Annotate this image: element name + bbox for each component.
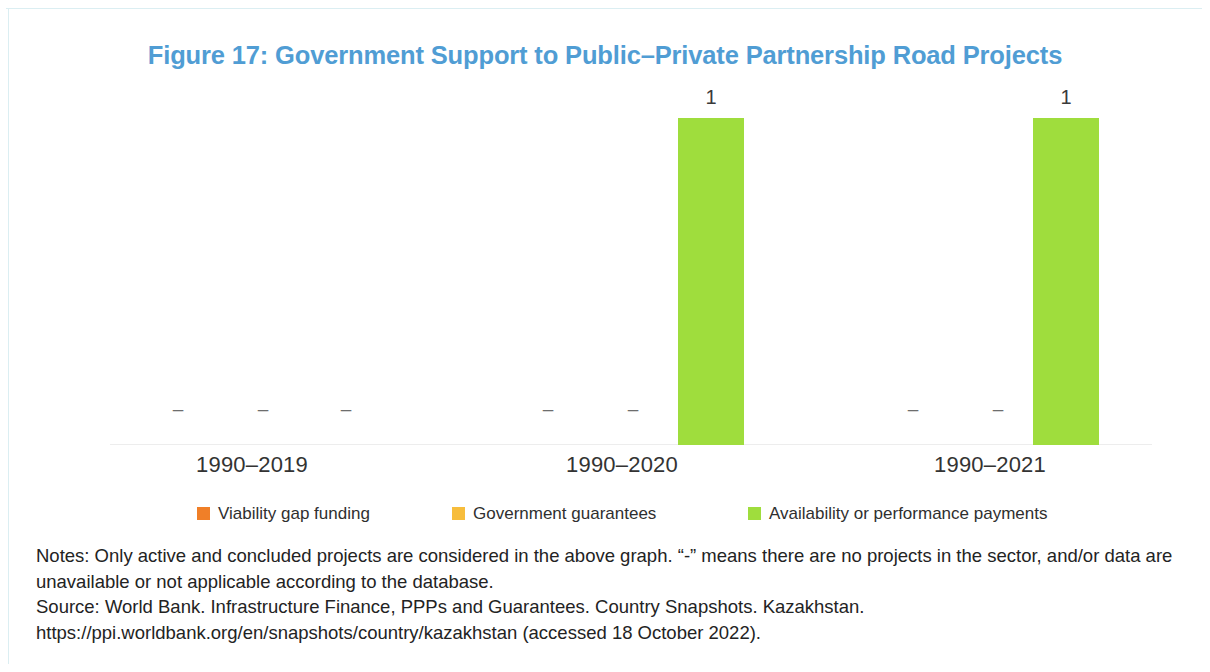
bar-group-1990-2021: – – 1	[870, 88, 1170, 445]
legend-item-government-guarantees[interactable]: Government guarantees	[452, 505, 656, 522]
figure-container: Figure 17: Government Support to Public–…	[0, 0, 1210, 672]
bar-value-label: 1	[1013, 87, 1119, 107]
legend-swatch-icon	[452, 507, 465, 520]
missing-value-marker: –	[600, 399, 666, 418]
bar-slot-viability-gap-funding[interactable]: –	[880, 88, 946, 445]
missing-value-marker: –	[145, 399, 211, 418]
figure-footnotes: Notes: Only active and concluded project…	[36, 543, 1176, 645]
missing-value-marker: –	[230, 399, 296, 418]
bar-slot-availability-or-performance-payments[interactable]: –	[313, 88, 379, 445]
missing-value-marker: –	[880, 399, 946, 418]
legend-label: Availability or performance payments	[769, 505, 1047, 522]
missing-value-marker: –	[965, 399, 1031, 418]
legend-label: Viability gap funding	[218, 505, 370, 522]
figure-source: Source: World Bank. Infrastructure Finan…	[36, 594, 1176, 645]
bar-slot-government-guarantees[interactable]: –	[230, 88, 296, 445]
x-axis-label-1990-2020: 1990–2020	[472, 452, 772, 478]
bar-group-1990-2019: – – –	[135, 88, 435, 445]
bar-slot-availability-or-performance-payments[interactable]: 1	[1033, 88, 1099, 445]
missing-value-marker: –	[515, 399, 581, 418]
bar-availability-or-performance-payments[interactable]	[1033, 118, 1099, 445]
legend-swatch-icon	[748, 507, 761, 520]
bar-slot-government-guarantees[interactable]: –	[965, 88, 1031, 445]
figure-notes: Notes: Only active and concluded project…	[36, 543, 1176, 594]
bar-slot-viability-gap-funding[interactable]: –	[145, 88, 211, 445]
bar-slot-government-guarantees[interactable]: –	[600, 88, 666, 445]
plot-area: – – – – – 1 –	[110, 88, 1150, 445]
legend-label: Government guarantees	[473, 505, 656, 522]
chart-legend: Viability gap funding Government guarant…	[0, 505, 1210, 531]
bar-slot-viability-gap-funding[interactable]: –	[515, 88, 581, 445]
x-axis-label-1990-2021: 1990–2021	[840, 452, 1140, 478]
bar-slot-availability-or-performance-payments[interactable]: 1	[678, 88, 744, 445]
legend-item-viability-gap-funding[interactable]: Viability gap funding	[197, 505, 370, 522]
x-axis-label-1990-2019: 1990–2019	[102, 452, 402, 478]
bar-group-1990-2020: – – 1	[505, 88, 805, 445]
legend-swatch-icon	[197, 507, 210, 520]
bar-value-label: 1	[658, 87, 764, 107]
figure-title: Figure 17: Government Support to Public–…	[0, 41, 1210, 70]
bar-availability-or-performance-payments[interactable]	[678, 118, 744, 445]
missing-value-marker: –	[313, 399, 379, 418]
legend-item-availability-or-performance-payments[interactable]: Availability or performance payments	[748, 505, 1047, 522]
